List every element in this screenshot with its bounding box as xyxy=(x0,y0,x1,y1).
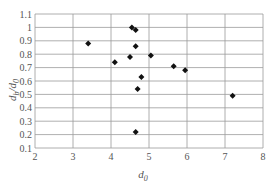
y-tick-label: 0.5 xyxy=(20,89,33,100)
x-tick-label: 2 xyxy=(33,151,38,162)
data-point-diamond xyxy=(133,43,139,49)
data-point-diamond xyxy=(138,74,144,80)
x-tick-label: 5 xyxy=(147,151,152,162)
y-tick-label: 0.2 xyxy=(20,129,33,140)
data-point-diamond xyxy=(127,54,133,60)
x-tick-label: 3 xyxy=(71,151,76,162)
x-tick-label: 4 xyxy=(109,151,114,162)
scatter-chart: 2345678 0.10.20.30.40.50.60.70.80.911.1 … xyxy=(0,0,269,183)
grid xyxy=(35,14,263,148)
x-axis-label: d0 xyxy=(138,168,148,183)
y-tick-label: 0.3 xyxy=(20,116,33,127)
x-tick-label: 7 xyxy=(223,151,228,162)
data-point-diamond xyxy=(133,129,139,135)
x-tick-label: 6 xyxy=(185,151,190,162)
x-tick-label: 8 xyxy=(261,151,266,162)
y-tick-label: 0.8 xyxy=(20,49,33,60)
y-tick-label: 0.4 xyxy=(20,102,33,113)
y-axis-ticks: 0.10.20.30.40.50.60.70.80.911.1 xyxy=(20,9,33,154)
data-point-diamond xyxy=(171,63,177,69)
y-tick-label: 0.7 xyxy=(20,62,33,73)
y-tick-label: 0.6 xyxy=(20,76,33,87)
data-point-diamond xyxy=(85,40,91,46)
y-tick-label: 1 xyxy=(27,22,32,33)
data-point-diamond xyxy=(135,86,141,92)
data-point-diamond xyxy=(230,93,236,99)
data-point-diamond xyxy=(112,59,118,65)
x-axis-ticks: 2345678 xyxy=(33,151,266,162)
y-tick-label: 0.1 xyxy=(20,143,33,154)
y-tick-label: 1.1 xyxy=(20,9,33,20)
y-tick-label: 0.9 xyxy=(20,35,33,46)
